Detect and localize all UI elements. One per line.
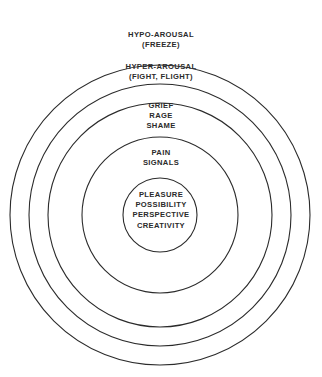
diagram-canvas: From Trauma to Turn On HYPO-AROUSAL (FRE… [0,0,322,377]
ring-label-hyper-arousal: HYPER-AROUSAL (FIGHT, FLIGHT) [0,62,322,82]
concentric-circles-graphic [0,0,322,377]
ring-label-pain: PAIN [0,148,322,158]
ring-label-pleasure: PLEASURE [0,190,322,200]
ring-label-hypo-arousal: HYPO-AROUSAL (FREEZE) [0,30,322,50]
ring-label-hyper-arousal-line-2: (FIGHT, FLIGHT) [0,72,322,82]
ring-label-possibility: POSSIBILITY [0,200,322,210]
ring-label-grief-rage-shame: GRIEF RAGE SHAME [0,101,322,132]
ring-label-pain-signals: PAIN SIGNALS [0,148,322,168]
ring-label-shame: SHAME [0,121,322,131]
ring-label-hypo-arousal-line-2: (FREEZE) [0,40,322,50]
ring-label-core-pleasure: PLEASURE POSSIBILITY PERSPECTIVE CREATIV… [0,190,322,231]
ring-label-grief: GRIEF [0,101,322,111]
ring-label-hyper-arousal-line-1: HYPER-AROUSAL [0,62,322,72]
ring-label-perspective: PERSPECTIVE [0,210,322,220]
ring-label-signals: SIGNALS [0,158,322,168]
ring-label-rage: RAGE [0,111,322,121]
ring-label-creativity: CREATIVITY [0,221,322,231]
ring-label-hypo-arousal-line-1: HYPO-AROUSAL [0,30,322,40]
